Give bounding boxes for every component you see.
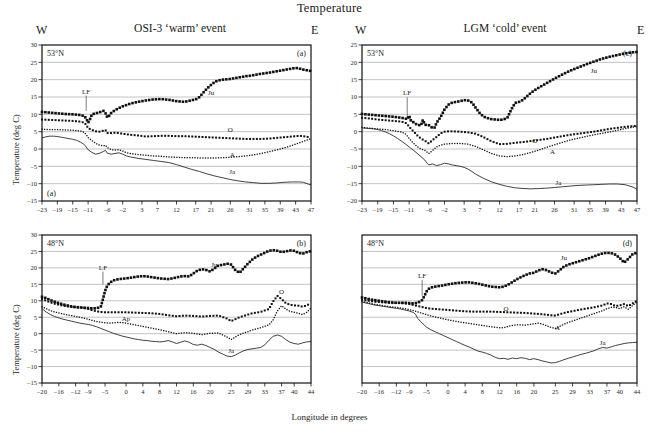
series-Ja [362,128,637,189]
x-tick-label: 12 [496,206,503,213]
series-label-Ap: Ap [122,315,131,323]
y-tick-label: 30 [30,41,37,48]
y-tick-label: 10 [30,297,37,304]
panel-frame [362,45,637,201]
series-label-A: A [555,324,560,332]
x-tick-label: 26 [551,206,558,213]
plot-canvas: –23–19–15–11–6–237121721263135394347–15–… [0,0,659,439]
east-marker-c: E [637,23,644,38]
series-label-Ja: Ja [556,179,563,187]
x-tick-label: 25 [552,388,559,395]
x-tick-label: 21 [208,206,215,213]
panel-corner-label: (d) [623,239,633,248]
x-tick-label: –20 [36,388,48,395]
x-tick-label: 40 [617,388,624,395]
x-tick-label: 29 [569,388,576,395]
panel-frame [42,45,311,201]
x-tick-label: –19 [51,206,63,213]
x-tick-label: 47 [634,206,641,213]
series-Ja [362,302,637,363]
series-label-O: O [279,288,284,296]
lf-annotation: LF [82,88,90,96]
y-tick-label: 0 [34,145,38,152]
column-title-warm: OSI-3 ‘warm’ event [55,22,305,34]
panel-corner-label: (a) [297,49,306,58]
y-tick-label: 5 [34,314,38,321]
y-tick-label: –15 [26,379,38,386]
x-tick-label: –16 [373,388,385,395]
x-tick-label: –16 [53,388,65,395]
x-tick-label: 43 [618,206,625,213]
latitude-label: 48°N [47,239,64,248]
x-tick-label: –15 [387,206,399,213]
y-axis-label-b: Temperature (deg C) [11,304,21,375]
y-tick-label: 25 [350,41,357,48]
series-label-A: A [550,148,555,156]
x-tick-label: –11 [82,206,93,213]
y-tick-label: –5 [349,145,357,152]
y-tick-label: –10 [26,363,38,370]
x-tick-label: 35 [587,206,594,213]
series-label-Ju: Ju [591,67,598,75]
west-marker-a: W [36,23,47,38]
y-tick-label: 25 [30,248,37,255]
series-label-Ju: Ju [211,261,218,269]
latitude-label: 53°N [367,49,384,58]
x-tick-label: 7 [156,206,160,213]
series-label-Ja: Ja [600,339,607,347]
west-marker-c: W [355,23,366,38]
y-tick-label: 5 [34,128,38,135]
latitude-label: 53°N [47,49,64,58]
east-marker-a: E [311,23,318,38]
x-tick-label: 31 [246,206,253,213]
x-tick-label: –2 [118,206,126,213]
x-tick-label: 0 [446,388,450,395]
x-tick-label: 16 [513,388,520,395]
x-tick-label: 47 [308,206,315,213]
x-tick-label: –5 [422,388,430,395]
x-tick-label: 17 [516,206,523,213]
series-O [361,299,637,317]
series-O [41,295,309,322]
x-tick-label: 12 [173,388,180,395]
series-Ju [361,51,638,129]
y-tick-label: 20 [30,264,37,271]
x-tick-label: 39 [277,206,284,213]
x-tick-label: 44 [634,388,641,395]
y-tick-label: 20 [30,76,37,83]
panel-a: –23–19–15–11–6–237121721263135394347–15–… [26,41,315,213]
y-tick-label: –5 [29,163,37,170]
x-tick-label: 25 [228,388,235,395]
x-tick-label: –6 [424,206,432,213]
figure-title: Temperature [0,1,659,16]
y-tick-label: –15 [26,197,38,204]
x-tick-label: –12 [390,388,401,395]
series-label-A: A [230,151,235,159]
x-tick-label: 3 [140,206,144,213]
y-tick-label: –5 [29,347,37,354]
panel-frame [362,235,637,383]
series-O [41,119,309,140]
x-tick-label: 20 [207,388,214,395]
x-tick-label: 7 [478,206,482,213]
x-tick-label: –6 [103,206,111,213]
series-A [361,301,636,329]
series-A [41,129,310,159]
y-tick-label: 10 [30,111,37,118]
series-Ap [41,306,310,340]
series-label-Ju: Ju [208,89,215,97]
x-tick-label: –9 [405,388,413,395]
y-tick-label: –10 [346,163,358,170]
column-title-cold: LGM ‘cold’ event [380,22,630,34]
x-tick-label: 31 [571,206,578,213]
lf-annotation: LF [99,264,107,272]
x-tick-label: 16 [190,388,197,395]
series-label-O: O [228,126,233,134]
series-Ja [42,136,311,185]
x-tick-label: 33 [586,388,593,395]
y-tick-label: 20 [350,59,357,66]
x-tick-label: 44 [308,388,315,395]
x-tick-label: 17 [192,206,199,213]
panel-corner-label: (b) [297,239,307,248]
lf-annotation: LF [403,89,411,97]
